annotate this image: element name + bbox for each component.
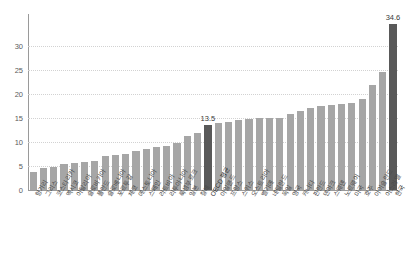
bar-value-label: 34.6 bbox=[386, 13, 401, 22]
bar-slot bbox=[162, 22, 172, 190]
bar-slot bbox=[38, 22, 48, 190]
bar-slot bbox=[336, 22, 346, 190]
bar-slot bbox=[100, 22, 110, 190]
x-label-slot: 아이슬란드 bbox=[367, 192, 377, 254]
bar bbox=[297, 111, 304, 190]
x-label-slot: 리투아니아 bbox=[162, 192, 172, 254]
y-tick-label: 15 bbox=[0, 114, 23, 123]
y-tick-label: 5 bbox=[0, 162, 23, 171]
y-tick-label: 20 bbox=[0, 90, 23, 99]
x-label-slot: 일본 bbox=[182, 192, 192, 254]
x-label-slot: 노르웨이 bbox=[336, 192, 346, 254]
x-label-slot: 스웨덴 bbox=[326, 192, 336, 254]
x-label-slot: 오스트리아 bbox=[244, 192, 254, 254]
bar-slot bbox=[234, 22, 244, 190]
x-label-slot: 독일 bbox=[275, 192, 285, 254]
x-label-slot: 스위스 bbox=[234, 192, 244, 254]
bar-slot bbox=[347, 22, 357, 190]
bar-slot bbox=[69, 22, 79, 190]
bar-slot bbox=[378, 22, 388, 190]
x-label-slot: 영국 bbox=[285, 192, 295, 254]
bar-slot bbox=[244, 22, 254, 190]
x-label-slot: 칠레 bbox=[193, 192, 203, 254]
x-label-slot: 에스토니아 bbox=[131, 192, 141, 254]
bar-slot bbox=[326, 22, 336, 190]
x-label-slot: 미국 bbox=[347, 192, 357, 254]
x-label-slot: 프랑스 bbox=[223, 192, 233, 254]
x-label-slot: 이스라엘 bbox=[378, 192, 388, 254]
x-label-slot: 포르투갈 bbox=[110, 192, 120, 254]
x-label-slot: 헝가리 bbox=[28, 192, 38, 254]
bar-slot bbox=[357, 22, 367, 190]
bar-slot bbox=[28, 22, 38, 190]
x-label-slot: 슬로베니아 bbox=[100, 192, 110, 254]
bar-series: 13.534.6 bbox=[28, 22, 398, 190]
bar-slot bbox=[285, 22, 295, 190]
x-label-slot: 그리스 bbox=[38, 192, 48, 254]
bar-slot bbox=[151, 22, 161, 190]
x-label-slot: 멕시코 bbox=[59, 192, 69, 254]
x-label-slot: 아일랜드 bbox=[213, 192, 223, 254]
x-label-slot: 이탈리아 bbox=[69, 192, 79, 254]
y-tick-label: 0 bbox=[0, 186, 23, 195]
bar-slot bbox=[275, 22, 285, 190]
x-label-slot: 라트비아 bbox=[151, 192, 161, 254]
plot-area: 13.534.6 bbox=[28, 22, 398, 190]
bar bbox=[369, 85, 376, 190]
bar-slot bbox=[172, 22, 182, 190]
bar-slot bbox=[182, 22, 192, 190]
bar-slot bbox=[59, 22, 69, 190]
bar-slot bbox=[141, 22, 151, 190]
bar-slot bbox=[90, 22, 100, 190]
x-label-slot: 네덜란드 bbox=[264, 192, 274, 254]
x-label-slot: 핀란드 bbox=[306, 192, 316, 254]
x-label-slot: 슬로바키아 bbox=[79, 192, 89, 254]
bar-highlighted bbox=[204, 125, 211, 190]
bar-slot bbox=[264, 22, 274, 190]
x-label-slot: 덴마크 bbox=[316, 192, 326, 254]
x-label-slot: 폴란드 bbox=[90, 192, 100, 254]
x-label-slot: 룩셈부르크 bbox=[172, 192, 182, 254]
bar-slot bbox=[110, 22, 120, 190]
bar-slot bbox=[121, 22, 131, 190]
x-label-slot: 코스타리카 bbox=[49, 192, 59, 254]
bar-slot bbox=[193, 22, 203, 190]
bar bbox=[194, 133, 201, 190]
bar-slot bbox=[131, 22, 141, 190]
x-label-slot: 호주 bbox=[357, 192, 367, 254]
x-label-slot: 벨기에 bbox=[254, 192, 264, 254]
x-label-slot: 스페인 bbox=[141, 192, 151, 254]
bar-slot bbox=[316, 22, 326, 190]
bar-slot: 13.5 bbox=[203, 22, 213, 190]
bar-slot bbox=[295, 22, 305, 190]
bar-slot bbox=[49, 22, 59, 190]
y-tick-label: 30 bbox=[0, 42, 23, 51]
x-label-slot: 한국 bbox=[388, 192, 398, 254]
x-label-slot: OECD 평균 bbox=[203, 192, 213, 254]
bar-slot bbox=[254, 22, 264, 190]
x-label-slot: 캐나다 bbox=[295, 192, 305, 254]
x-axis-category-labels: 헝가리그리스코스타리카멕시코이탈리아슬로바키아폴란드슬로베니아포르투갈체코에스토… bbox=[28, 192, 398, 254]
bar-highlighted bbox=[389, 24, 396, 190]
y-tick-label: 25 bbox=[0, 66, 23, 75]
bar-slot bbox=[79, 22, 89, 190]
bar-slot bbox=[367, 22, 377, 190]
x-label-slot: 체코 bbox=[121, 192, 131, 254]
y-tick-label: 10 bbox=[0, 138, 23, 147]
bar-slot bbox=[306, 22, 316, 190]
bar-slot: 34.6 bbox=[388, 22, 398, 190]
